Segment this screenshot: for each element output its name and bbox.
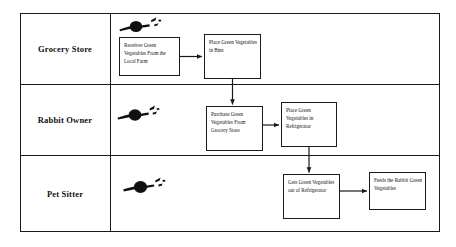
person-blob-icon bbox=[116, 104, 162, 124]
label-column-divider bbox=[110, 13, 111, 232]
process-box-purchase[interactable]: Purchase Green Vegetables From Grocery S… bbox=[206, 106, 263, 151]
person-blob-icon bbox=[122, 176, 168, 196]
lane-label-pet-sitter: Pet Sitter bbox=[20, 155, 110, 232]
swimlane-diagram: Grocery Store Rabbit Owner Pet Sitter bbox=[0, 0, 456, 247]
lane-label-grocery-store: Grocery Store bbox=[20, 13, 110, 84]
process-box-place-bins[interactable]: Place Green Vegetables in Bins bbox=[204, 34, 261, 79]
person-blob-icon bbox=[118, 16, 164, 36]
lane-label-rabbit-owner: Rabbit Owner bbox=[20, 84, 110, 155]
process-box-receives[interactable]: Receives Green Vegetables From the Local… bbox=[119, 37, 180, 76]
process-box-place-refrigerator[interactable]: Place Green Vegetables in Refrigerator bbox=[281, 102, 337, 147]
process-box-gets-out[interactable]: Gets Green Vegetables out of Refrigerato… bbox=[283, 174, 340, 219]
process-box-feeds[interactable]: Feeds the Rabbit Green Vegetables bbox=[369, 172, 426, 210]
